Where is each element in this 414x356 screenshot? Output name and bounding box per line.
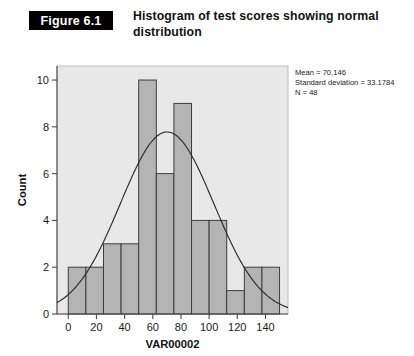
y-axis-title: Count <box>16 174 28 207</box>
histogram-bar <box>139 80 157 314</box>
x-tick-label: 60 <box>147 321 159 333</box>
figure-caption: Histogram of test scores showing normal … <box>133 9 388 40</box>
x-tick-label: 20 <box>90 321 102 333</box>
y-tick-label: 6 <box>43 168 49 180</box>
chart-canvas: 0246810 020406080100120140 VAR00002 Coun… <box>0 48 414 356</box>
y-tick-label: 2 <box>43 261 49 273</box>
x-tick-label: 0 <box>65 321 71 333</box>
statistics-annotation: Mean = 70.146 Standard deviation = 33.17… <box>295 68 394 97</box>
histogram-bar <box>86 267 104 314</box>
x-tick-label: 140 <box>256 321 274 333</box>
x-tick-label: 100 <box>200 321 218 333</box>
y-tick-label: 4 <box>43 214 49 226</box>
y-axis-ticks: 0246810 <box>37 74 57 320</box>
stat-standard-deviation: Standard deviation = 33.1784 <box>295 78 394 87</box>
x-axis-ticks: 020406080100120140 <box>65 314 274 333</box>
stat-n: N = 48 <box>295 88 318 97</box>
figure-number-badge: Figure 6.1 <box>29 11 113 30</box>
y-tick-label: 8 <box>43 121 49 133</box>
histogram-bar <box>103 244 121 314</box>
stat-mean: Mean = 70.146 <box>295 68 346 77</box>
histogram-bar <box>244 267 262 314</box>
y-tick-label: 10 <box>37 74 49 86</box>
histogram-bar <box>121 244 139 314</box>
x-axis-title: VAR00002 <box>146 338 200 350</box>
histogram-bar <box>192 220 210 314</box>
histogram-bar <box>262 267 280 314</box>
histogram-chart: 0246810 020406080100120140 VAR00002 Coun… <box>0 48 414 356</box>
histogram-bar <box>227 291 245 314</box>
x-tick-label: 120 <box>228 321 246 333</box>
x-tick-label: 80 <box>175 321 187 333</box>
figure-header: Figure 6.1 Histogram of test scores show… <box>0 0 414 50</box>
histogram-bar <box>68 267 86 314</box>
histogram-bar <box>209 220 227 314</box>
y-tick-label: 0 <box>43 308 49 320</box>
histogram-bar <box>156 174 174 314</box>
x-tick-label: 40 <box>118 321 130 333</box>
